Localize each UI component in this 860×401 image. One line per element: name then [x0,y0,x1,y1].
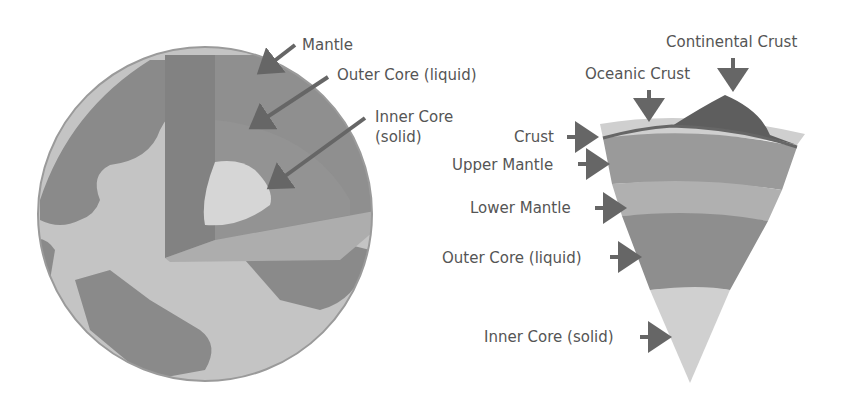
globe [30,47,380,381]
label-lower-mantle: Lower Mantle [470,199,571,217]
earth-layers-diagram: Mantle Outer Core (liquid) Inner Core (s… [0,0,860,401]
label-upper-mantle: Upper Mantle [452,156,553,174]
label-outer-core: Outer Core (liquid) [337,66,477,84]
label-outer-core-wedge: Outer Core (liquid) [442,249,582,267]
label-mantle: Mantle [302,36,353,54]
layer-wedge [600,95,805,383]
label-inner-core-wedge: Inner Core (solid) [484,328,614,346]
label-continental-crust: Continental Crust [666,33,797,51]
label-oceanic-crust: Oceanic Crust [585,65,690,83]
label-crust: Crust [514,128,554,146]
label-inner-core-1: Inner Core [375,108,453,126]
label-inner-core-2: (solid) [375,128,422,146]
outer-core-layer [622,213,768,290]
upper-mantle-layer [603,133,797,190]
